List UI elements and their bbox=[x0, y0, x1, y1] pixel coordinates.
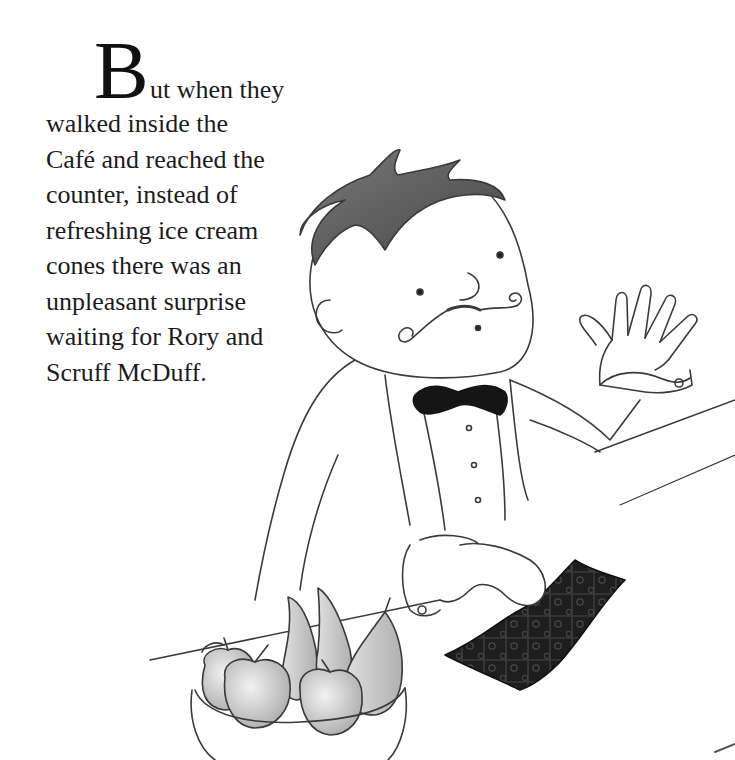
story-line: refreshing ice cream bbox=[46, 213, 316, 249]
raised-hand bbox=[580, 285, 697, 392]
story-line: counter, instead of bbox=[46, 177, 316, 213]
story-line: Café and reached the bbox=[46, 142, 316, 178]
story-line: cones there was an bbox=[46, 248, 316, 284]
first-line-text: ut when they bbox=[150, 72, 284, 108]
first-line: B ut when they bbox=[46, 44, 316, 106]
drop-cap: B bbox=[94, 30, 149, 112]
story-line: unpleasant surprise bbox=[46, 284, 316, 320]
wiping-arm bbox=[403, 535, 626, 690]
story-line: waiting for Rory and bbox=[46, 319, 316, 355]
story-text: B ut when they walked inside the Café an… bbox=[46, 44, 316, 390]
story-line: Scruff McDuff. bbox=[46, 355, 316, 391]
counter bbox=[150, 400, 735, 660]
story-line: walked inside the bbox=[46, 106, 316, 142]
apple bbox=[300, 669, 362, 735]
storybook-page: B ut when they walked inside the Café an… bbox=[0, 0, 735, 760]
